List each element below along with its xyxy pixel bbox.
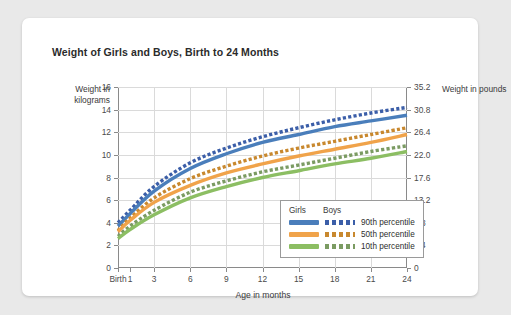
- x-tick-label: 21: [366, 274, 375, 284]
- y-tick-label-right: 26.4: [414, 127, 430, 137]
- legend-item: 10th percentile: [289, 242, 415, 251]
- x-tick-label: 1: [128, 274, 133, 284]
- x-tick-label: 18: [330, 274, 339, 284]
- legend-swatch-girls: [289, 232, 319, 237]
- y-tick-mark-right: [407, 132, 411, 133]
- chart-card: Weight of Girls and Boys, Birth to 24 Mo…: [22, 18, 478, 296]
- y-tick-label-left: 2: [106, 240, 111, 250]
- legend-swatch-boys: [325, 232, 355, 237]
- y-tick-label-right: 17.6: [414, 173, 430, 183]
- x-tick-mark: [190, 268, 191, 272]
- y-tick-mark-right: [407, 87, 411, 88]
- x-tick-mark: [226, 268, 227, 272]
- legend-rows: 90th percentile50th percentile10th perce…: [289, 218, 415, 251]
- y-tick-label-left: 12: [102, 127, 111, 137]
- x-tick-label: 3: [152, 274, 157, 284]
- y-tick-mark-right: [407, 155, 411, 156]
- y-tick-mark-right: [407, 110, 411, 111]
- y-axis-title-right-line1: Weight in pounds: [442, 84, 507, 94]
- y-tick-label-right: 35.2: [414, 82, 430, 92]
- legend-label: 90th percentile: [361, 218, 415, 227]
- legend-label: 50th percentile: [361, 230, 415, 239]
- legend-header-girls: Girls: [289, 206, 323, 215]
- y-axis-title-right: Weight in pounds: [442, 84, 511, 95]
- legend-swatch-boys: [325, 220, 355, 225]
- x-tick-mark: [299, 268, 300, 272]
- legend-item: 50th percentile: [289, 230, 415, 239]
- x-tick-mark: [130, 268, 131, 272]
- y-tick-label-right: 30.8: [414, 105, 430, 115]
- chart-title: Weight of Girls and Boys, Birth to 24 Mo…: [52, 46, 279, 58]
- x-tick-label: 9: [224, 274, 229, 284]
- x-tick-label: 12: [258, 274, 267, 284]
- y-tick-label-left: 10: [102, 150, 111, 160]
- x-tick-mark: [371, 268, 372, 272]
- y-tick-label-left: 14: [102, 105, 111, 115]
- legend-label: 10th percentile: [361, 242, 415, 251]
- chart-legend: Girls Boys 90th percentile50th percentil…: [280, 200, 424, 258]
- x-axis-title: Age in months: [118, 290, 408, 300]
- legend-header: Girls Boys: [289, 206, 415, 215]
- x-tick-mark: [154, 268, 155, 272]
- x-tick-mark: [407, 268, 408, 272]
- x-tick-mark: [118, 268, 119, 272]
- legend-swatch-girls: [289, 244, 319, 249]
- y-tick-label-left: 4: [106, 218, 111, 228]
- legend-swatch-boys: [325, 244, 355, 249]
- y-tick-label-right: 22.0: [414, 150, 430, 160]
- y-tick-mark-right: [407, 178, 411, 179]
- x-tick-label: Birth: [109, 274, 126, 284]
- x-tick-label: 24: [402, 274, 411, 284]
- y-tick-label-left: 16: [102, 82, 111, 92]
- legend-swatch-girls: [289, 220, 319, 225]
- y-tick-label-left: 0: [106, 263, 111, 273]
- y-tick-label-right: 0: [414, 263, 419, 273]
- x-tick-label: 6: [188, 274, 193, 284]
- x-tick-mark: [263, 268, 264, 272]
- x-tick-mark: [335, 268, 336, 272]
- y-tick-label-left: 6: [106, 195, 111, 205]
- legend-item: 90th percentile: [289, 218, 415, 227]
- legend-header-boys: Boys: [323, 206, 361, 215]
- y-tick-label-left: 8: [106, 173, 111, 183]
- x-tick-label: 15: [294, 274, 303, 284]
